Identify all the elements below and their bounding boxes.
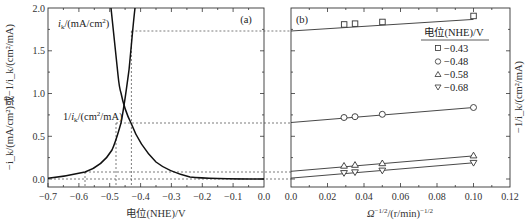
circle-marker-icon	[435, 59, 440, 64]
panel-a-x-ticks	[48, 8, 249, 187]
x-tick: −0.4	[132, 191, 150, 202]
square-marker-icon	[436, 46, 441, 51]
x-tick: 0.10	[465, 191, 483, 202]
legend-title: 电位(NHE)/V	[424, 26, 483, 39]
panel-a-label: (a)	[240, 14, 252, 26]
panel-b-x-axis-title: Ω−1/2/(r/min)−1/2	[367, 207, 434, 220]
panel-a-y-axis-title: −i_k/(mA/cm²)或−1/i_k/(cm²/mA)	[4, 24, 16, 170]
ik-curve	[48, 8, 135, 178]
x-tick: 0.0	[258, 191, 271, 202]
panel-a-frame	[48, 8, 264, 187]
legend-item-043: −0.43	[436, 43, 469, 54]
reference-lines	[54, 31, 291, 187]
x-tick: 0.0	[285, 191, 298, 202]
y-tick: 0.0	[33, 174, 46, 185]
legend-item-068: −0.68	[435, 82, 468, 93]
legend-label: −0.43	[444, 43, 468, 54]
legend-label: −0.48	[444, 56, 468, 67]
y-tick: 1.0	[33, 88, 46, 99]
panel-b-y-axis-title: −1/i_k/(cm²/mA)	[513, 60, 525, 133]
legend-item-058: −0.58	[435, 69, 468, 80]
panel-b-x-tick-labels: 0.0 0.02 0.04 0.06 0.08 0.10 0.12	[285, 191, 519, 202]
x-tick: −0.7	[39, 191, 57, 202]
legend-label: −0.58	[444, 69, 468, 80]
y-tick: 1.5	[33, 45, 46, 56]
x-tick: 0.04	[355, 191, 373, 202]
inv-ik-curve-label: 1/ik/(cm2/mA)	[63, 110, 123, 124]
inv-ik-curve	[111, 8, 264, 179]
panel-a-x-axis-title: 电位(NHE)/V	[126, 207, 185, 220]
panel-b-y-ticks	[291, 29, 510, 179]
ik-curve-label: ik/(mA/cm2)	[58, 17, 110, 31]
x-tick: −0.6	[70, 191, 88, 202]
legend-label: −0.68	[444, 82, 468, 93]
x-tick: 0.02	[319, 191, 337, 202]
x-tick: −0.5	[101, 191, 119, 202]
triangle-up-marker-icon	[435, 72, 441, 77]
x-tick: −0.1	[224, 191, 242, 202]
panel-a-x-tick-labels: −0.7 −0.6 −0.5 −0.4 −0.3 −0.2 −0.1 0.0	[39, 191, 270, 202]
legend-item-048: −0.48	[435, 56, 468, 67]
panel-a-y-ticks	[48, 29, 264, 179]
legend: 电位(NHE)/V −0.43 −0.48 −0.58 −0.68	[421, 26, 489, 93]
x-tick: 0.06	[392, 191, 410, 202]
panel-a-y-tick-labels: 0.0 0.5 1.0 1.5 2.0	[33, 3, 46, 185]
x-tick: −0.2	[193, 191, 211, 202]
panel-b: 0.0 0.02 0.04 0.06 0.08 0.10 0.12	[285, 8, 525, 220]
x-tick: 0.08	[428, 191, 446, 202]
panel-a: −0.7 −0.6 −0.5 −0.4 −0.3 −0.2 −0.1 0.0 0…	[4, 3, 291, 221]
panel-b-label: (b)	[296, 14, 309, 26]
triangle-down-marker-icon	[435, 85, 441, 90]
x-tick: 0.12	[501, 191, 519, 202]
x-tick: −0.3	[162, 191, 180, 202]
y-tick: 2.0	[33, 3, 46, 14]
y-tick: 0.5	[33, 131, 46, 142]
figure: −0.7 −0.6 −0.5 −0.4 −0.3 −0.2 −0.1 0.0 0…	[0, 0, 528, 224]
